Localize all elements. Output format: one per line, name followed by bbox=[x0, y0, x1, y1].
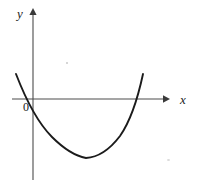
origin-label: 0 bbox=[23, 101, 29, 113]
x-axis-arrowhead-icon bbox=[163, 95, 170, 103]
plot-canvas bbox=[0, 0, 199, 185]
scan-artifact-speck bbox=[167, 159, 170, 161]
x-axis-label: x bbox=[180, 93, 186, 106]
scan-artifact-speck bbox=[66, 62, 68, 64]
y-axis-arrowhead-icon bbox=[29, 8, 36, 15]
parabola-curve bbox=[16, 74, 143, 158]
y-axis-label: y bbox=[17, 7, 23, 20]
parabola-figure: y x 0 bbox=[0, 0, 199, 185]
